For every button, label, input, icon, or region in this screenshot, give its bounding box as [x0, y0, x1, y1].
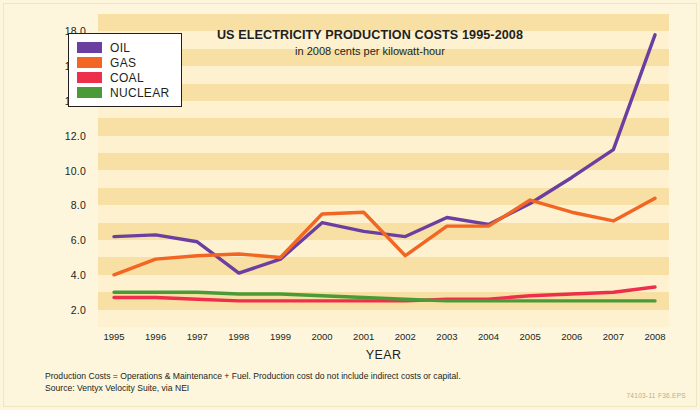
x-axis-title: YEAR: [98, 348, 669, 362]
legend-label: COAL: [110, 72, 144, 84]
x-tick-label: 1999: [270, 331, 291, 342]
legend-swatch-gas: [77, 57, 102, 68]
legend-item-coal[interactable]: COAL: [77, 70, 169, 85]
x-axis-ticks: 1995199619971998199920002001200220032004…: [98, 331, 669, 347]
chart-subtitle: in 2008 cents per kilowatt-hour: [190, 45, 550, 57]
footnotes: Production Costs = Operations & Maintena…: [45, 370, 605, 395]
x-tick-label: 2004: [478, 331, 499, 342]
legend-item-oil[interactable]: OIL: [77, 40, 169, 55]
x-tick-label: 2006: [561, 331, 582, 342]
series-lines: [98, 14, 669, 327]
x-tick-label: 2002: [395, 331, 416, 342]
legend-swatch-coal: [77, 72, 102, 83]
footnote-production-costs: Production Costs = Operations & Maintena…: [45, 370, 605, 382]
series-line-gas: [114, 198, 655, 275]
x-tick-label: 2008: [644, 331, 665, 342]
y-tick-label: 4.0: [71, 269, 86, 281]
chart-figure: 2.04.06.08.010.012.014.016.018.0 1995199…: [0, 0, 700, 410]
y-tick-label: 6.0: [71, 234, 86, 246]
series-line-oil: [114, 35, 655, 273]
legend: OILGASCOALNUCLEAR: [68, 33, 182, 107]
legend-swatch-oil: [77, 42, 102, 53]
y-tick-label: 2.0: [71, 304, 86, 316]
footnote-source: Source: Ventyx Velocity Suite, via NEI: [45, 382, 605, 394]
legend-label: NUCLEAR: [110, 87, 169, 99]
x-tick-label: 1996: [145, 331, 166, 342]
legend-swatch-nuclear: [77, 87, 102, 98]
legend-item-gas[interactable]: GAS: [77, 55, 169, 70]
y-tick-label: 8.0: [71, 199, 86, 211]
x-tick-label: 2000: [311, 331, 332, 342]
legend-label: GAS: [110, 57, 136, 69]
x-tick-label: 2005: [520, 331, 541, 342]
document-code: 74103-11 F36.EPS: [626, 392, 686, 399]
x-tick-label: 2001: [353, 331, 374, 342]
chart-title: US ELECTRICITY PRODUCTION COSTS 1995-200…: [190, 28, 550, 42]
plot-area: [98, 14, 669, 327]
x-tick-label: 2003: [436, 331, 457, 342]
legend-item-nuclear[interactable]: NUCLEAR: [77, 85, 169, 100]
legend-label: OIL: [110, 42, 130, 54]
x-tick-label: 1995: [103, 331, 124, 342]
x-tick-label: 1997: [187, 331, 208, 342]
y-tick-label: 10.0: [65, 165, 86, 177]
y-tick-label: 12.0: [65, 130, 86, 142]
title-block: US ELECTRICITY PRODUCTION COSTS 1995-200…: [190, 28, 550, 57]
x-tick-label: 1998: [228, 331, 249, 342]
x-tick-label: 2007: [603, 331, 624, 342]
